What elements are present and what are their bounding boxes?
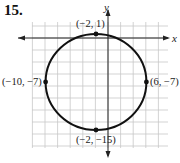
- point-right-label: (6, −7): [150, 76, 179, 88]
- y-axis-label: y: [103, 1, 109, 13]
- point-bottom-label: (−2, −15): [76, 134, 116, 146]
- point-right: [144, 80, 149, 85]
- point-top-label: (−2, 1): [76, 18, 105, 30]
- point-left: [43, 80, 48, 85]
- point-left-label: (−10, −7): [2, 76, 42, 88]
- y-axis-arrow-down-icon: [106, 151, 111, 158]
- point-bottom: [94, 128, 99, 133]
- circle-graph: x y (−2, 1) (−10, −7) (6, −7) (−2, −15): [0, 0, 180, 163]
- circle-curve: [46, 34, 147, 130]
- point-top: [94, 32, 99, 37]
- x-axis-label: x: [171, 32, 177, 44]
- x-axis-arrow-right-icon: [163, 36, 170, 41]
- x-axis-arrow-left-icon: [18, 36, 25, 41]
- points: (−2, 1) (−10, −7) (6, −7) (−2, −15): [2, 18, 179, 146]
